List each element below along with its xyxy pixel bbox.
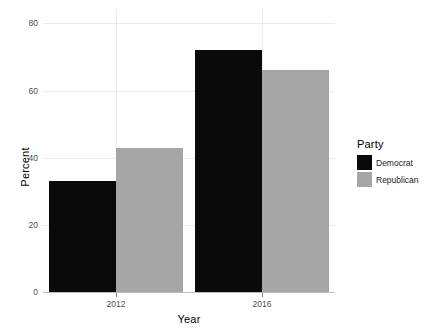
y-tick-label-80: 80 [0, 19, 38, 28]
y-tick-label-20: 20 [0, 221, 38, 230]
gridline-h-80 [43, 23, 335, 24]
legend-item-democrat[interactable]: Democrat [357, 155, 442, 170]
x-tick-label-2016: 2016 [253, 299, 272, 309]
legend-swatch-democrat [357, 155, 372, 170]
bar-republican-2012 [116, 148, 183, 292]
legend-swatch-republican [357, 172, 372, 187]
y-tick-label-60: 60 [0, 86, 38, 95]
plot-area [43, 10, 335, 293]
bar-chart: Percent 0 20 40 60 80 2012 2016 Year Par… [0, 0, 442, 334]
bar-republican-2016 [262, 70, 329, 292]
y-tick-label-0: 0 [0, 288, 38, 297]
x-tick-label-2012: 2012 [107, 299, 126, 309]
legend-title: Party [357, 138, 442, 150]
x-tick-mark-2016 [262, 293, 263, 297]
x-axis-ticks: 2012 2016 [43, 293, 335, 313]
legend-label-republican: Republican [376, 175, 419, 185]
y-tick-label-40: 40 [0, 153, 38, 162]
legend-item-republican[interactable]: Republican [357, 172, 442, 187]
legend-label-democrat: Democrat [376, 158, 413, 168]
x-axis-title: Year [43, 313, 335, 325]
bar-democrat-2016 [195, 50, 262, 292]
bar-democrat-2012 [49, 181, 116, 292]
legend: Party Democrat Republican [357, 138, 442, 189]
x-tick-mark-2012 [116, 293, 117, 297]
y-axis-ticks: 0 20 40 60 80 [0, 0, 38, 334]
